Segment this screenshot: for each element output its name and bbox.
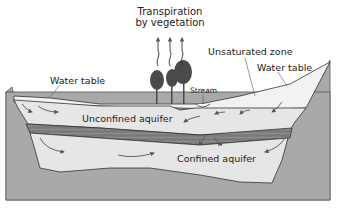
- label-unsaturated-zone: Unsaturated zone: [208, 46, 293, 57]
- label-water-table-left: Water table: [50, 75, 105, 86]
- label-by-vegetation: by vegetation: [135, 17, 204, 28]
- aquifer-diagram: Transpiration by vegetation Water table …: [0, 0, 342, 210]
- label-unconfined-aquifer: Unconfined aquifer: [82, 113, 173, 124]
- label-transpiration: Transpiration: [137, 6, 203, 17]
- label-confined-aquifer: Confined aquifer: [177, 153, 256, 164]
- label-water-table-right: Water table: [257, 62, 312, 73]
- label-stream: Stream: [190, 86, 217, 95]
